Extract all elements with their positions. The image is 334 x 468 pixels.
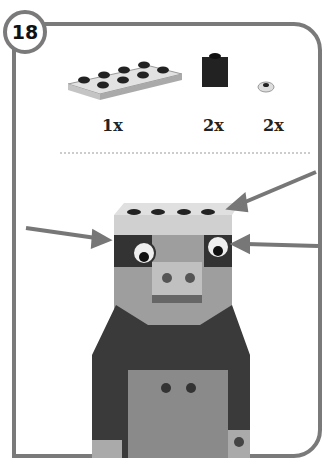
figure-head bbox=[114, 203, 240, 325]
divider bbox=[60, 152, 310, 154]
illustration bbox=[0, 0, 334, 468]
black-brick-part-icon bbox=[202, 53, 228, 87]
plate-part-icon bbox=[68, 62, 182, 101]
brick-quantity: 2x bbox=[203, 116, 224, 135]
plate-quantity: 1x bbox=[102, 116, 123, 135]
eye-tile-part-icon bbox=[258, 82, 274, 92]
tile-quantity: 2x bbox=[263, 116, 284, 135]
figure-body bbox=[92, 305, 250, 458]
